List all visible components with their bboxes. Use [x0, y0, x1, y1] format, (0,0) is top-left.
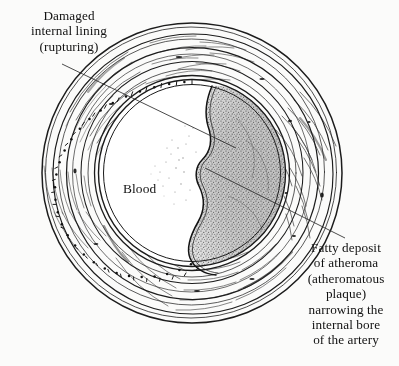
- label-damaged-internal-lining: Damaged internal lining (rupturing): [6, 8, 132, 54]
- label-fatty-deposit-atheroma: Fatty deposit of atheroma (atheromatous …: [296, 240, 396, 348]
- label-blood: Blood: [123, 181, 181, 196]
